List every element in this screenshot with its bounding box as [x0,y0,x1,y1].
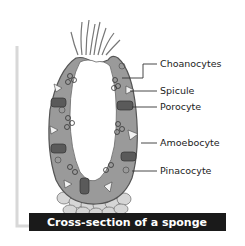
label-spicule: Spicule [160,85,195,96]
label-porocyte: Porocyte [160,101,201,112]
label-choanocytes: Choanocytes [160,58,222,69]
label-pinacocyte: Pinacocyte [160,165,212,176]
bracket-line [17,46,30,226]
osculum-flagella [71,20,120,55]
sponge-cross-section-diagram: Choanocytes Spicule Porocyte Amoebocyte … [0,0,245,246]
diagram-caption: Cross-section of a sponge [47,216,207,229]
label-amoebocyte: Amoebocyte [160,137,220,148]
